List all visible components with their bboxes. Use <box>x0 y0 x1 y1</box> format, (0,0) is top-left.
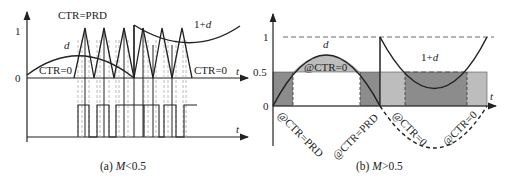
caption-b: (b) M>0.5 <box>356 160 403 173</box>
rot-label-ctr-prd-1: @CTR=PRD <box>276 109 326 159</box>
pwm-output-a <box>78 105 197 137</box>
carrier-triangle-a <box>74 28 192 78</box>
x-label-bottom-a: t <box>236 123 240 135</box>
label-at-ctr0-top: @CTR=0 <box>304 61 348 73</box>
y-tick-0-b: 0 <box>263 100 269 112</box>
one-plus-d-curve-a <box>134 25 240 43</box>
label-d-a: d <box>64 39 70 51</box>
label-d-b: d <box>323 38 329 50</box>
fill-light-2 <box>467 72 487 106</box>
dashed-guides-a <box>78 40 186 140</box>
caption-a: (a) M<0.5 <box>100 160 146 173</box>
panel-b: 1 0.5 0 d @CTR=0 1+d t @CTR=PRD @CTR=PRD… <box>253 14 496 173</box>
rot-label-ctr-prd-2: @CTR=PRD <box>330 111 380 161</box>
rot-label-ctr0-1: @CTR=0 <box>391 109 430 148</box>
panel-a: CTR=PRD 1 0 d CTR=0 CTR=0 1+d t t (a) M<… <box>15 9 248 173</box>
y-tick-1-a: 1 <box>15 25 21 37</box>
y-tick-0-a: 0 <box>15 72 21 84</box>
label-ctr-prd: CTR=PRD <box>58 9 107 21</box>
x-label-top-a: t <box>236 65 240 77</box>
label-1pd-b: 1+d <box>421 51 439 63</box>
label-1pd-a: 1+d <box>194 18 212 30</box>
x-label-b: t <box>490 90 494 102</box>
y-tick-1-b: 1 <box>263 31 269 43</box>
rot-label-ctr0-2: @CTR=0 <box>440 108 479 147</box>
y-tick-05-b: 0.5 <box>253 66 267 78</box>
pwm-diagram: CTR=PRD 1 0 d CTR=0 CTR=0 1+d t t (a) M<… <box>0 0 513 188</box>
fill-light-1 <box>381 72 405 106</box>
label-ctr0-left: CTR=0 <box>39 64 73 76</box>
label-ctr0-right: CTR=0 <box>194 64 228 76</box>
